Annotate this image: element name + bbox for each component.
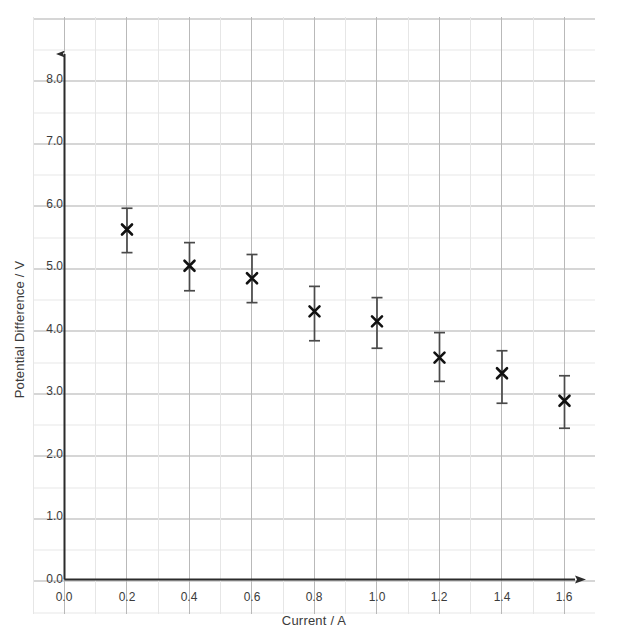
y-tick-label-3: 3.0 bbox=[33, 384, 63, 398]
y-tick-label-2: 2.0 bbox=[33, 447, 63, 461]
y-tick-label-6: 6.0 bbox=[33, 197, 63, 211]
x-tick-label-7: 1.4 bbox=[482, 590, 522, 604]
data-point-group bbox=[122, 208, 571, 428]
y-tick-label-8: 8.0 bbox=[33, 72, 63, 86]
y-tick-label-7: 7.0 bbox=[33, 134, 63, 148]
data-point bbox=[122, 208, 133, 252]
x-tick-label-5: 1.0 bbox=[357, 590, 397, 604]
data-point bbox=[434, 333, 445, 382]
x-tick-label-3: 0.6 bbox=[232, 590, 272, 604]
data-point bbox=[559, 376, 570, 429]
y-tick-label-5: 5.0 bbox=[33, 259, 63, 273]
y-axis-title: Potential Difference / V bbox=[12, 210, 27, 450]
data-point bbox=[247, 255, 258, 303]
x-axis-title: Current / A bbox=[0, 613, 628, 628]
x-tick-label-2: 0.4 bbox=[169, 590, 209, 604]
chart-plot-area bbox=[0, 0, 628, 644]
y-tick-label-1: 1.0 bbox=[33, 509, 63, 523]
data-point bbox=[309, 286, 320, 340]
data-point bbox=[184, 243, 195, 291]
y-tick-label-0: 0.0 bbox=[33, 572, 63, 586]
x-tick-label-0: 0.0 bbox=[44, 590, 84, 604]
x-tick-label-6: 1.2 bbox=[419, 590, 459, 604]
chart-container: 0.0 1.0 2.0 3.0 4.0 5.0 6.0 7.0 8.0 0.0 … bbox=[0, 0, 628, 644]
y-tick-label-4: 4.0 bbox=[33, 322, 63, 336]
x-axis-arrowhead bbox=[575, 576, 586, 584]
x-tick-label-1: 0.2 bbox=[107, 590, 147, 604]
x-tick-label-4: 0.8 bbox=[294, 590, 334, 604]
data-point bbox=[497, 351, 508, 404]
x-tick-label-8: 1.6 bbox=[544, 590, 584, 604]
data-point bbox=[372, 298, 383, 349]
